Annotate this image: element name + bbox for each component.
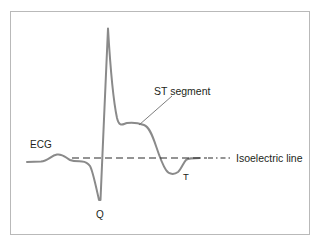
diagram-border (11, 12, 310, 235)
label-st-segment: ST segment (154, 85, 210, 97)
label-isoelectric-line: Isoelectric line (236, 152, 303, 164)
label-q-wave: Q (96, 209, 104, 220)
label-t-wave: T (183, 171, 189, 182)
label-ecg: ECG (30, 139, 52, 150)
ecg-diagram: ECG ST segment Isoelectric line Q T (0, 0, 323, 246)
